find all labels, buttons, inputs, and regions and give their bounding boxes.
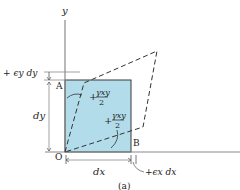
- eps-x-dx-label: +ϵx dx: [145, 167, 176, 177]
- dx-label: dx: [93, 166, 105, 177]
- lower-angle-numerator: γxy: [112, 111, 126, 120]
- y-axis-label: y: [61, 5, 68, 16]
- upper-angle-denominator: 2: [99, 98, 104, 107]
- dy-label: dy: [33, 110, 45, 121]
- upper-angle-numerator: γxy: [96, 88, 110, 97]
- point-b-label: B: [133, 138, 140, 148]
- caption: (a): [118, 181, 130, 190]
- lower-angle-denominator: 2: [115, 121, 120, 130]
- point-o-label: O: [55, 152, 62, 162]
- point-a-label: A: [55, 81, 63, 91]
- eps-y-dy-label: + ϵy dy: [3, 68, 38, 78]
- eps-x-leader: [133, 162, 144, 172]
- strain-element-diagram: y A B O dy dx + ϵy dy +ϵx dx (a) + γxy 2…: [0, 0, 240, 190]
